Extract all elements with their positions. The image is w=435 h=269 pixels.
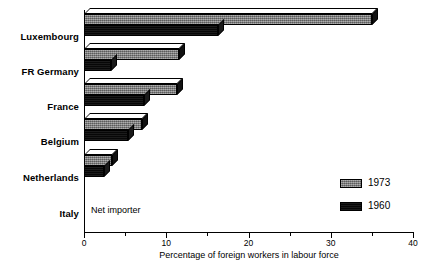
bar-netherlands-1960 <box>84 166 104 177</box>
category-label-luxembourg: Luxembourg <box>1 31 79 42</box>
bar-top-luxembourg-1973 <box>84 8 378 14</box>
x-tick-label-30: 30 <box>326 238 335 248</box>
annotation-italy-net-importer: Net importer <box>91 205 141 215</box>
bar-france-1960 <box>84 95 144 106</box>
bar-france-1973 <box>84 84 177 95</box>
x-tick-label-0: 0 <box>82 238 87 248</box>
bar-luxembourg-1960 <box>84 25 218 36</box>
legend-label-1973: 1973 <box>368 177 390 188</box>
bar-top-fr-germany-1973 <box>84 43 185 49</box>
plot-area: Luxembourg FR Germany France Belgium Net… <box>0 0 435 269</box>
x-tick-label-40: 40 <box>408 238 417 248</box>
category-label-belgium: Belgium <box>1 136 79 147</box>
bar-top-belgium-1973 <box>84 113 148 119</box>
category-label-netherlands: Netherlands <box>1 172 79 183</box>
x-tick-35 <box>372 233 373 236</box>
x-tick-25 <box>290 233 291 236</box>
y-axis-line <box>84 10 85 232</box>
category-label-france: France <box>1 101 79 112</box>
category-label-italy: Italy <box>1 208 79 219</box>
legend-swatch-1973 <box>340 179 362 188</box>
x-axis-title: Percentage of foreign workers in labour … <box>84 250 414 260</box>
bar-top-france-1973 <box>84 78 183 84</box>
x-tick-label-20: 20 <box>244 238 253 248</box>
legend-swatch-1960 <box>340 202 362 211</box>
legend-label-1960: 1960 <box>368 200 390 211</box>
category-axis-labels: Luxembourg FR Germany France Belgium Net… <box>0 0 79 232</box>
category-label-fr-germany: FR Germany <box>1 66 79 77</box>
bar-chart-figure: Luxembourg FR Germany France Belgium Net… <box>0 0 435 269</box>
x-tick-label-10: 10 <box>162 238 171 248</box>
bar-belgium-1960 <box>84 130 128 141</box>
bar-fr-germany-1960 <box>84 60 111 71</box>
x-tick-15 <box>207 233 208 236</box>
x-tick-5 <box>125 233 126 236</box>
bar-luxembourg-1973 <box>84 14 372 25</box>
bar-fr-germany-1973 <box>84 49 179 60</box>
